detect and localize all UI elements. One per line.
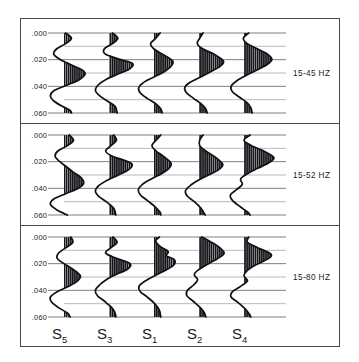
trace-label-base: S — [97, 325, 107, 342]
trace-axis-label-S1: S1 — [142, 325, 157, 345]
trace-S5 — [50, 237, 81, 317]
trace-positive-fill — [244, 141, 274, 175]
trace-label-subscript: 5 — [62, 334, 67, 345]
trace-label-subscript: 1 — [152, 334, 157, 345]
figure-frame: .000.020.040.06015-45 HZ.000.020.040.060… — [20, 18, 340, 347]
trace-label-base: S — [232, 325, 242, 342]
y-axis-tick-label: .060 — [21, 313, 47, 322]
trace-S5 — [50, 135, 83, 215]
frequency-band-label: 15-45 HZ — [293, 69, 330, 78]
y-axis-tick-label: .000 — [21, 29, 47, 38]
trace-axis-label-S5: S5 — [52, 325, 67, 345]
y-axis-tick-label: .020 — [21, 55, 47, 64]
y-axis-tick-label: .000 — [21, 131, 47, 140]
y-axis-tick-label: .000 — [21, 233, 47, 242]
frequency-band-label: 15-52 HZ — [293, 171, 330, 180]
seismic-trace-figure: .000.020.040.06015-45 HZ.000.020.040.060… — [0, 0, 359, 362]
trace-label-subscript: 2 — [197, 334, 202, 345]
trace-label-base: S — [142, 325, 152, 342]
y-axis-tick-label: .040 — [21, 184, 47, 193]
panel-15-80-hz: .000.020.040.06015-80 HZ — [21, 225, 339, 326]
y-axis-tick-label: .040 — [21, 82, 47, 91]
y-axis-tick-label: .020 — [21, 157, 47, 166]
panel-15-52-hz: .000.020.040.06015-52 HZ — [21, 123, 339, 224]
y-axis-tick-label: .060 — [21, 109, 47, 118]
y-axis-tick-label: .040 — [21, 286, 47, 295]
trace-axis-label-S2: S2 — [187, 325, 202, 345]
trace-label-base: S — [187, 325, 197, 342]
trace-label-subscript: 4 — [242, 334, 247, 345]
trace-label-base: S — [52, 325, 62, 342]
y-axis-tick-label: .060 — [21, 211, 47, 220]
frequency-band-label: 15-80 HZ — [293, 273, 330, 282]
panel-15-45-hz: .000.020.040.06015-45 HZ — [21, 21, 339, 122]
trace-label-subscript: 3 — [107, 334, 112, 345]
trace-S5 — [50, 33, 85, 113]
trace-axis-label-S3: S3 — [97, 325, 112, 345]
y-axis-tick-label: .020 — [21, 259, 47, 268]
trace-axis-label-S4: S4 — [232, 325, 247, 345]
